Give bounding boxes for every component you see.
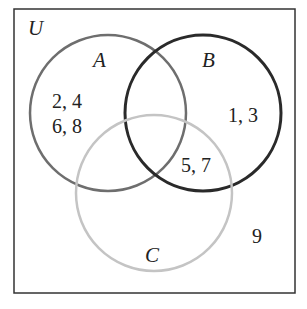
venn-diagram: U A B C 2, 4 6, 8 1, 3 5, 7 9 xyxy=(0,0,307,309)
universe-label: U xyxy=(28,16,45,40)
set-c-label: C xyxy=(145,243,160,267)
region-b-only: 1, 3 xyxy=(228,104,258,126)
region-b-and-c: 5, 7 xyxy=(181,154,211,176)
region-a-only-line1: 2, 4 xyxy=(52,90,82,112)
region-a-only-line2: 6, 8 xyxy=(52,115,82,137)
set-a-label: A xyxy=(91,48,106,72)
region-outside: 9 xyxy=(252,225,262,247)
set-b-label: B xyxy=(202,48,215,72)
